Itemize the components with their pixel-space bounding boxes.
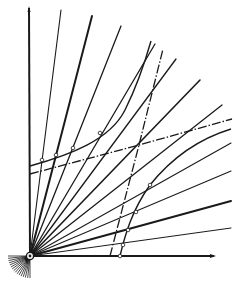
diagram-canvas: [0, 0, 234, 290]
intersection-marker: [126, 228, 130, 232]
x-axis-arrow-icon: [210, 254, 216, 258]
ray-line: [30, 143, 231, 256]
construction-diagram: [0, 0, 234, 290]
ray-line: [30, 44, 155, 256]
origin-point: [26, 252, 33, 259]
y-axis-arrow-icon: [28, 6, 31, 12]
intersection-marker: [121, 243, 125, 247]
small-ray-fan: [8, 256, 30, 278]
radial-rays: [30, 10, 231, 256]
ray-line: [30, 26, 121, 256]
intersection-marker: [98, 131, 102, 135]
ray-line: [30, 171, 231, 256]
intersection-marker: [40, 158, 44, 162]
y-axis: [29, 8, 30, 256]
curve: [120, 129, 231, 256]
intersection-marker: [134, 210, 138, 214]
intersection-marker: [118, 254, 122, 258]
intersection-marker: [148, 183, 152, 187]
ray-line: [30, 10, 61, 256]
ray-line: [30, 80, 200, 256]
ray-line: [30, 201, 231, 256]
dot-dash-line: [30, 119, 232, 174]
origin-dot: [29, 255, 32, 258]
ray-line: [30, 59, 176, 256]
intersection-marker: [71, 146, 75, 150]
dot-dash-line: [110, 49, 163, 256]
intersection-marker: [54, 153, 58, 157]
ray-line: [30, 16, 92, 256]
